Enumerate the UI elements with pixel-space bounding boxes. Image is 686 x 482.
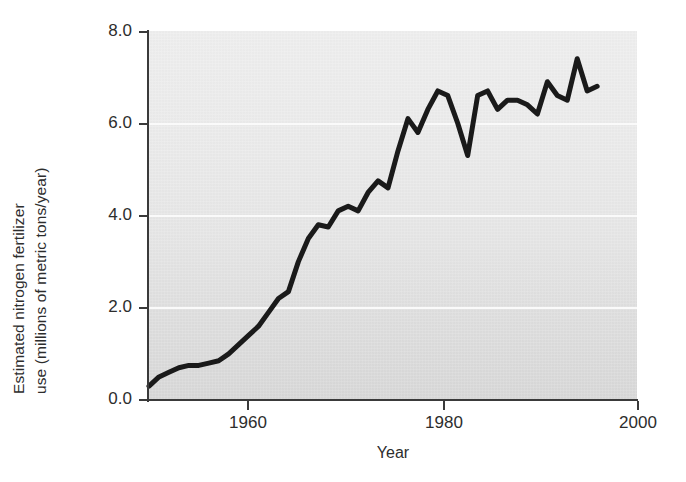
y-axis-title: Estimated nitrogen fertilizer use (milli… xyxy=(14,0,68,400)
y-axis-title-line-1: Estimated nitrogen fertilizer xyxy=(10,203,28,394)
x-tick-mark-2000 xyxy=(637,401,639,410)
y-axis-title-line-2: use (millions of metric tons/year) xyxy=(32,168,50,395)
fertilizer-use-line-chart: Estimated nitrogen fertilizer use (milli… xyxy=(0,0,686,482)
y-tick-label-8: 8.0 xyxy=(86,21,132,41)
x-axis-title: Year xyxy=(149,444,637,462)
x-tick-label-1960: 1960 xyxy=(208,413,288,433)
x-tick-label-2000: 2000 xyxy=(598,413,678,433)
x-tick-mark-1960 xyxy=(247,401,249,410)
data-series-line xyxy=(149,31,637,400)
x-axis-line xyxy=(147,399,638,401)
plot-area xyxy=(149,31,637,400)
y-tick-label-2: 2.0 xyxy=(86,297,132,317)
y-tick-label-0: 0.0 xyxy=(86,389,132,409)
y-tick-label-4: 4.0 xyxy=(86,205,132,225)
x-tick-mark-1980 xyxy=(443,401,445,410)
x-tick-label-1980: 1980 xyxy=(404,413,484,433)
y-axis-line xyxy=(147,30,149,402)
y-tick-label-6: 6.0 xyxy=(86,113,132,133)
